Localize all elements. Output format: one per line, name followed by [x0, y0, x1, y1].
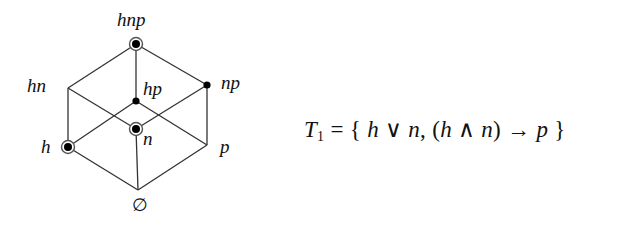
- formula-term: n: [481, 117, 493, 142]
- formula-or-operator: ∨: [379, 117, 408, 142]
- lattice-edges: [68, 44, 207, 190]
- formula-and-operator: ∧: [452, 117, 481, 142]
- theory-formula: T1 = { h ∨ n, (h ∧ n) → p }: [304, 116, 566, 145]
- formula-comma: ,: [420, 117, 432, 142]
- hasse-diagram: hnphnhpnphnp∅: [0, 0, 280, 226]
- node-label-np: np: [221, 72, 240, 93]
- node-label-h: h: [41, 136, 51, 157]
- node-label-p: p: [218, 136, 230, 157]
- formula-equals: =: [324, 117, 349, 142]
- node-label-empty: ∅: [132, 194, 148, 215]
- node-label-hp: hp: [143, 78, 162, 99]
- formula-open-brace: {: [350, 117, 367, 142]
- node-label-hnp: hnp: [117, 9, 146, 30]
- formula-term: n: [408, 117, 420, 142]
- formula-term: h: [440, 117, 452, 142]
- edge-p-empty: [138, 145, 207, 190]
- node-label-n: n: [143, 128, 153, 149]
- formula-open-paren: (: [432, 117, 440, 142]
- formula-term: h: [367, 117, 379, 142]
- node-dot-hp: [132, 97, 139, 104]
- node-label-hn: hn: [27, 75, 46, 96]
- edge-h-empty: [68, 147, 138, 190]
- node-dot-hnp: [132, 40, 140, 48]
- node-dot-n: [132, 125, 140, 133]
- formula-close-paren: ): [493, 117, 501, 142]
- node-dot-h: [64, 143, 72, 151]
- formula-lhs: T: [304, 117, 317, 142]
- edge-n-empty: [136, 129, 138, 190]
- formula-close-brace: }: [548, 117, 565, 142]
- node-dot-np: [203, 81, 210, 88]
- formula-implies-operator: →: [501, 117, 536, 142]
- formula-term: p: [536, 117, 548, 142]
- edge-hnp-hn: [68, 44, 136, 88]
